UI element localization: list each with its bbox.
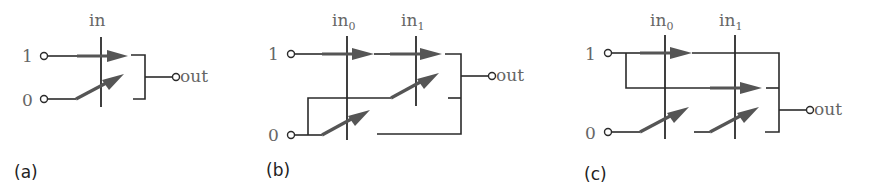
arrow-head-icon xyxy=(107,50,128,62)
panel-c: in0 in1 1 0 out (c) xyxy=(584,10,842,184)
switch-arm-open xyxy=(391,80,424,98)
terminal-out xyxy=(173,74,180,81)
input-label-0: 0 xyxy=(22,90,33,110)
arrow-head-icon xyxy=(352,48,374,60)
wire xyxy=(626,53,710,88)
output-bracket xyxy=(377,54,461,134)
caption-b: (b) xyxy=(266,160,290,180)
arrow-head-icon xyxy=(737,107,759,123)
terminal-out xyxy=(807,107,814,114)
input-label-1: 1 xyxy=(22,46,33,66)
arrow-head-icon xyxy=(740,82,762,94)
terminal-1 xyxy=(288,51,295,58)
switch-circuit-figure: in 1 0 out (a) in0 in1 1 xyxy=(0,0,877,194)
input-label-1: 1 xyxy=(268,44,279,64)
output-label: out xyxy=(496,65,524,85)
terminal-0 xyxy=(288,132,295,139)
arrow-head-icon xyxy=(670,47,692,59)
output-label: out xyxy=(180,66,208,86)
arrow-head-icon xyxy=(102,74,124,90)
output-bracket xyxy=(131,55,145,99)
caption-c: (c) xyxy=(584,164,607,184)
terminal-out xyxy=(489,73,496,80)
switch-arm-open xyxy=(322,117,355,135)
control-label-in0: in0 xyxy=(650,10,673,33)
control-label-in: in xyxy=(89,10,105,30)
terminal-1 xyxy=(605,50,612,57)
terminal-1 xyxy=(41,53,48,60)
arrow-head-icon xyxy=(667,107,689,123)
output-label: out xyxy=(814,99,842,119)
arrow-head-icon xyxy=(417,73,439,89)
arrow-head-icon xyxy=(348,110,370,126)
control-label-in1: in1 xyxy=(719,10,742,33)
panel-a: in 1 0 out (a) xyxy=(14,10,208,182)
control-label-in1: in1 xyxy=(401,10,424,33)
control-label-in0: in0 xyxy=(332,10,355,33)
panel-b: in0 in1 1 0 out (b) xyxy=(266,10,524,180)
arrow-head-icon xyxy=(420,48,442,60)
switch-arm-open xyxy=(640,114,674,132)
terminal-0 xyxy=(605,129,612,136)
input-label-0: 0 xyxy=(268,125,279,145)
switch-arm-open xyxy=(710,114,744,132)
caption-a: (a) xyxy=(14,162,38,182)
terminal-0 xyxy=(41,96,48,103)
input-label-1: 1 xyxy=(585,44,596,64)
input-label-0: 0 xyxy=(585,123,596,143)
